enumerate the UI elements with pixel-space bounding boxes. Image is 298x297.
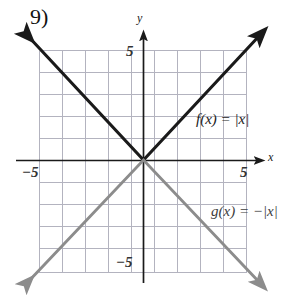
function-f-annotation: f(x) = |x| <box>196 112 249 127</box>
x-axis-label: x <box>268 151 273 163</box>
coordinate-plane-svg <box>0 0 298 297</box>
absolute-value-graph-figure: 9) y x 5 −5 5 −5 f(x) = |x| g(x) = −|x| <box>0 0 298 297</box>
problem-number-label: 9) <box>30 6 48 28</box>
function-g-annotation: g(x) = −|x| <box>211 204 278 219</box>
y-axis-tick-negative-5: −5 <box>116 255 133 270</box>
x-axis-tick-negative-5: −5 <box>22 165 39 180</box>
x-axis-tick-positive-5: 5 <box>240 165 248 180</box>
y-axis-tick-positive-5: 5 <box>126 44 134 59</box>
y-axis-label: y <box>137 12 142 24</box>
